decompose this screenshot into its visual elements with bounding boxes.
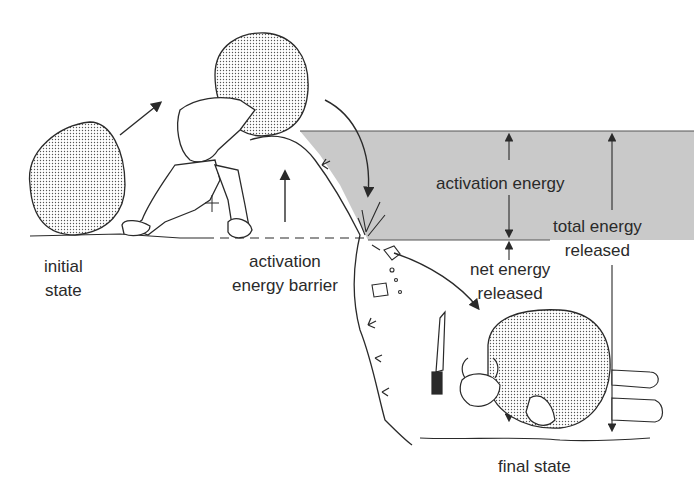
label-total-line2: released: [553, 239, 642, 263]
label-total-energy-released: total energy released: [553, 215, 642, 263]
label-activation-energy: activation energy: [436, 172, 565, 196]
final-ground: [420, 438, 650, 441]
sword-icon: [432, 312, 445, 394]
label-final-state: final state: [498, 455, 571, 479]
label-barrier-line1: activation: [232, 250, 338, 274]
label-initial-line1: initial: [44, 255, 83, 279]
label-net-line1: net energy: [470, 258, 550, 282]
label-net-energy-released: net energy released: [470, 258, 550, 306]
label-barrier-line2: energy barrier: [232, 274, 338, 298]
label-initial-line2: state: [44, 279, 83, 303]
pushing-figure: [122, 98, 255, 238]
label-total-line1: total energy: [553, 215, 642, 239]
label-initial-state: initial state: [44, 255, 83, 303]
initial-boulder: [30, 122, 125, 235]
activation-energy-diagram: initial state activation energy barrier …: [0, 0, 694, 500]
label-net-line2: released: [470, 282, 550, 306]
label-activation-energy-barrier: activation energy barrier: [232, 250, 338, 298]
